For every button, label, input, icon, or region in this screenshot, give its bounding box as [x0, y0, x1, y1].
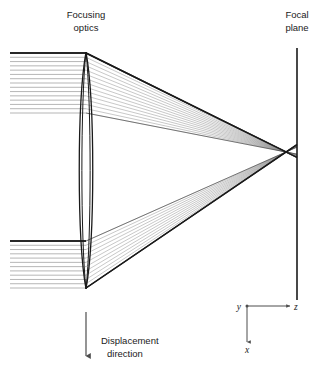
focal-plane-label-line2: plane — [285, 22, 308, 33]
axis-origin-dot — [246, 305, 249, 308]
axis-x-label: x — [244, 345, 250, 355]
axis-y-label: y — [236, 302, 242, 312]
optical-diagram-canvas: Focusing optics Focal plane Displacement… — [0, 0, 322, 382]
displacement-direction-indicator: Displacement direction — [86, 312, 159, 359]
focusing-optics-label-line2: optics — [74, 22, 99, 33]
displacement-label-line1: Displacement — [101, 335, 159, 346]
displacement-label-line2: direction — [107, 348, 143, 359]
incoming-rays-lower — [10, 241, 86, 288]
focusing-optics-label-line1: Focusing — [67, 9, 106, 20]
ray-diagram-figure: Focusing optics Focal plane Displacement… — [0, 0, 322, 382]
focal-plane-label-line1: Focal — [285, 9, 308, 20]
incoming-rays-upper — [10, 53, 86, 113]
focal-plane-label: Focal plane — [285, 9, 308, 33]
focusing-optics-label: Focusing optics — [67, 9, 106, 33]
coordinate-axes: y z x — [236, 302, 298, 356]
axis-z-label: z — [293, 302, 298, 312]
